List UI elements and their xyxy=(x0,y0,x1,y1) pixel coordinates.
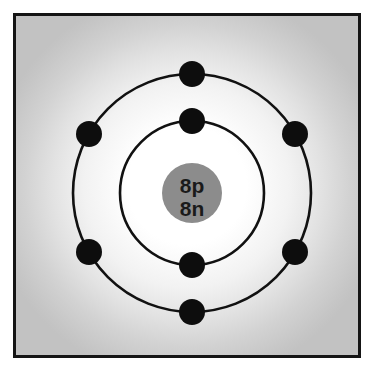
electron-outer-top xyxy=(179,61,205,87)
nucleus-neutron-label: 8n xyxy=(180,197,205,220)
electron-outer-upper-right xyxy=(282,121,308,147)
diagram-frame: 8p 8n xyxy=(13,13,361,358)
electron-outer-upper-left xyxy=(76,121,102,147)
electron-outer-lower-left xyxy=(76,239,102,265)
atom-stage: 8p 8n xyxy=(16,16,358,355)
nucleus-proton-label: 8p xyxy=(180,174,205,197)
atom-svg: 8p 8n xyxy=(16,16,358,355)
bohr-model-diagram: 8p 8n xyxy=(0,0,377,374)
electron-inner-top xyxy=(179,108,205,134)
electron-outer-lower-right xyxy=(282,239,308,265)
electron-inner-bottom xyxy=(179,252,205,278)
electron-outer-bottom xyxy=(179,299,205,325)
